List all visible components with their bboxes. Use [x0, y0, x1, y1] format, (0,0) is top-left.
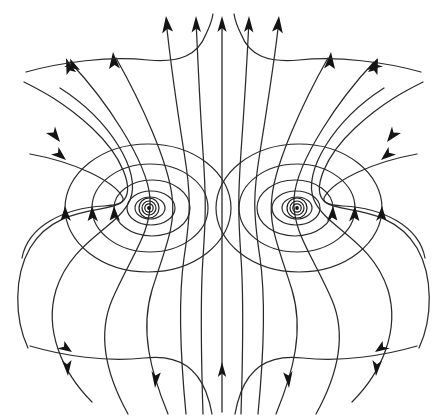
field-line-figure: Magnetic field lines of two antiparallel… — [0, 0, 447, 416]
right-wire-marker — [287, 198, 307, 218]
field-line-canvas — [0, 0, 447, 416]
left-wire-center-dot-icon — [147, 206, 151, 210]
right-wire-center-dot-icon — [295, 206, 299, 210]
left-wire-marker — [139, 198, 159, 218]
